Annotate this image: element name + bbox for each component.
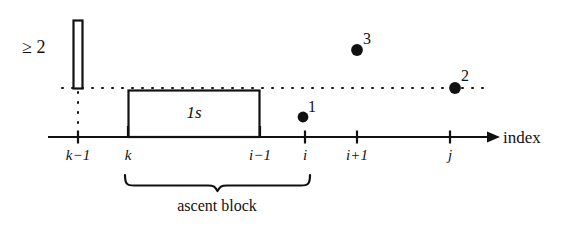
data-point-1-label: 1 bbox=[308, 99, 316, 115]
tick-label-k: k bbox=[125, 148, 132, 163]
data-point-3 bbox=[351, 44, 363, 56]
data-point-2 bbox=[449, 82, 461, 94]
threshold-bar-rect bbox=[74, 21, 83, 89]
tick-label-k-minus-1: k−1 bbox=[66, 148, 90, 163]
index-axis-arrowhead bbox=[487, 132, 500, 143]
data-point-3-label: 3 bbox=[363, 31, 371, 47]
ascent-block-diagram: ≥ 2 1s 1 3 2 k−1 k i−1 i i+1 j index asc… bbox=[0, 0, 567, 228]
tick-label-i: i bbox=[303, 148, 307, 163]
ascent-block-caption: ascent block bbox=[177, 198, 257, 214]
tick-label-i-plus-1: i+1 bbox=[346, 148, 368, 163]
ascent-block-brace bbox=[125, 175, 310, 191]
index-axis-title: index bbox=[503, 129, 541, 146]
data-point-2-label: 2 bbox=[461, 68, 469, 84]
threshold-bar-label: ≥ 2 bbox=[22, 38, 45, 56]
tick-label-j: j bbox=[448, 148, 452, 163]
tick-label-i-minus-1: i−1 bbox=[249, 148, 271, 163]
diagram-canvas bbox=[0, 0, 567, 228]
ascent-block-box-label: 1s bbox=[186, 104, 201, 121]
data-point-1 bbox=[298, 112, 309, 123]
